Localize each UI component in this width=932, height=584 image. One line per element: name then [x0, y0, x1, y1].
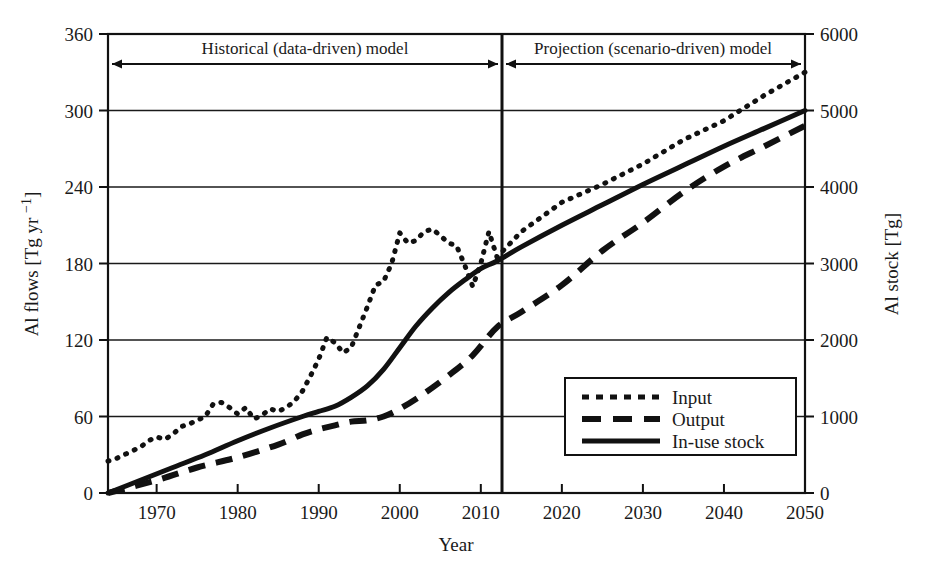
y-axis-title-right: Al stock [Tg] [881, 213, 902, 315]
x-tick-label-1980: 1980 [219, 502, 257, 523]
x-axis-tick-labels: 197019801990200020102020203020402050 [138, 502, 824, 523]
y2-tick-label-1000: 1000 [820, 407, 858, 428]
legend-label-input: Input [672, 387, 713, 408]
x-tick-label-2020: 2020 [543, 502, 581, 523]
y-tick-label-360: 360 [65, 24, 94, 45]
chart-legend[interactable]: Input Output In-use stock [565, 378, 796, 455]
y2-tick-label-2000: 2000 [820, 330, 858, 351]
y2-tick-label-0: 0 [820, 483, 830, 504]
y-tick-label-0: 0 [84, 483, 94, 504]
x-tick-label-2040: 2040 [705, 502, 743, 523]
al-flows-stock-line-chart: 197019801990200020102020203020402050 060… [0, 0, 932, 584]
chart-background [0, 0, 932, 584]
annotation-historical-label: Historical (data-driven) model [202, 39, 409, 58]
y-tick-label-300: 300 [65, 101, 94, 122]
x-axis-title: Year [438, 534, 474, 555]
y-tick-label-180: 180 [65, 254, 94, 275]
x-tick-label-2010: 2010 [462, 502, 500, 523]
x-tick-label-1990: 1990 [300, 502, 338, 523]
x-tick-label-2050: 2050 [786, 502, 824, 523]
y2-tick-label-5000: 5000 [820, 101, 858, 122]
x-tick-label-2030: 2030 [624, 502, 662, 523]
y2-tick-label-4000: 4000 [820, 177, 858, 198]
legend-label-output: Output [672, 409, 726, 430]
x-tick-label-1970: 1970 [138, 502, 176, 523]
y-axis-title-left: Al flows [Tg yr −1] [19, 192, 42, 337]
legend-label-in-use-stock: In-use stock [672, 431, 765, 452]
y-tick-label-60: 60 [74, 407, 93, 428]
annotation-projection: Projection (scenario-driven) model [506, 39, 801, 69]
chart-figure: 197019801990200020102020203020402050 060… [0, 0, 932, 584]
y-tick-label-120: 120 [65, 330, 94, 351]
y2-tick-label-6000: 6000 [820, 24, 858, 45]
x-tick-label-2000: 2000 [381, 502, 419, 523]
y2-tick-label-3000: 3000 [820, 254, 858, 275]
annotation-projection-label: Projection (scenario-driven) model [534, 39, 772, 58]
y-tick-label-240: 240 [65, 177, 94, 198]
